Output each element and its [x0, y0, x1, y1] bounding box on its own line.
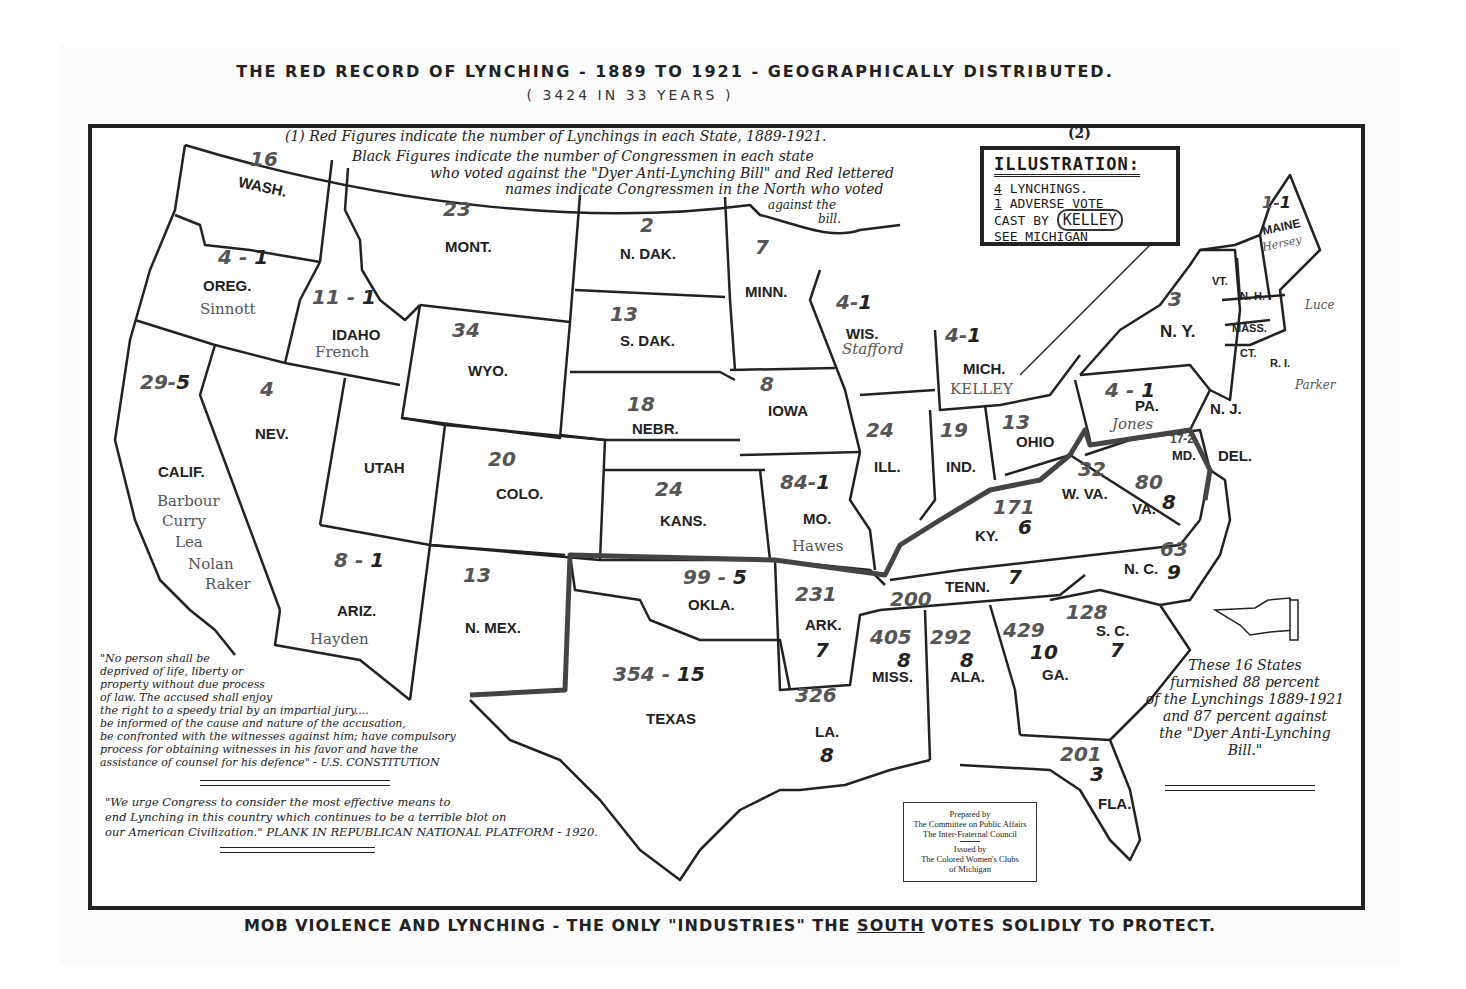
- state-wash-lynchings: 16: [250, 147, 278, 171]
- state-nh-label: N. H.: [1240, 290, 1265, 302]
- credits-box: Prepared by The Committee on Public Affa…: [903, 802, 1037, 882]
- state-colo-lynchings: 20: [488, 447, 516, 471]
- state-nc-lynchings: 63: [1160, 537, 1188, 561]
- state-iowa-label: IOWA: [768, 402, 808, 419]
- state-nc-label: N. C.: [1124, 560, 1158, 577]
- state-la-label: LA.: [815, 723, 839, 740]
- state-maine-lynchings: 1-1: [1262, 193, 1291, 212]
- state-utah-label: UTAH: [364, 459, 405, 476]
- state-texas-label: TEXAS: [646, 710, 696, 727]
- state-vt-label: VT.: [1212, 275, 1228, 287]
- state-kans-label: KANS.: [660, 512, 707, 529]
- state-wis-congressman: Stafford: [842, 340, 904, 358]
- stats-note: These 16 States furnished 88 percent of …: [1135, 657, 1355, 759]
- state-ark-votes: 7: [815, 638, 829, 662]
- state-pa-label: PA.: [1135, 397, 1159, 414]
- state-ga-votes: 10: [1030, 640, 1058, 664]
- state-iowa-lynchings: 8: [760, 372, 774, 396]
- state-wyo-label: WYO.: [468, 362, 508, 379]
- state-ill-label: ILL.: [874, 458, 901, 475]
- illustration-marker: (2): [1068, 125, 1091, 142]
- state-calif-congressman-1: Barbour: [157, 492, 220, 510]
- state-va-label: VA.: [1132, 500, 1156, 517]
- state-mich-lynchings: 4-1: [945, 323, 981, 347]
- state-nj-congressman: Parker: [1295, 378, 1336, 392]
- state-mich-congressman: KELLEY: [950, 380, 1013, 398]
- state-oreg-label: OREG.: [203, 277, 251, 294]
- state-nc-votes: 9: [1167, 560, 1181, 584]
- state-ny-label: N. Y.: [1160, 322, 1196, 342]
- state-ga-lynchings: 429: [1003, 618, 1045, 642]
- state-minn-lynchings: 7: [755, 235, 769, 259]
- state-ind-label: IND.: [946, 458, 976, 475]
- footer-caption: MOB VIOLENCE AND LYNCHING - THE ONLY "IN…: [150, 916, 1310, 935]
- state-del-label: DEL.: [1218, 447, 1252, 464]
- state-texas-lynchings: 354 - 15: [613, 662, 705, 686]
- stats-line-3: of the Lynchings 1889-1921: [1135, 691, 1355, 708]
- state-ga-label: GA.: [1042, 666, 1069, 683]
- stats-line-2: furnished 88 percent: [1135, 674, 1355, 691]
- stats-line-6: Bill.": [1135, 742, 1355, 759]
- state-colo-label: COLO.: [496, 485, 544, 502]
- state-wis-lynchings: 4-1: [836, 290, 872, 314]
- state-calif-congressman-4: Nolan: [188, 555, 234, 573]
- state-tenn-votes: 7: [1008, 565, 1022, 589]
- state-ohio-lynchings: 13: [1002, 410, 1030, 434]
- state-calif-congressman-3: Lea: [175, 533, 203, 551]
- legend-line-4: names indicate Congressmen in the North …: [505, 181, 883, 198]
- state-ri-label: R. I.: [1270, 357, 1290, 369]
- stats-line-4: and 87 percent against: [1135, 708, 1355, 725]
- stats-line-1: These 16 States: [1135, 657, 1355, 674]
- state-wyo-lynchings: 34: [452, 318, 480, 342]
- state-ny-lynchings: 3: [1168, 287, 1182, 311]
- state-nmex-lynchings: 13: [463, 563, 491, 587]
- state-mo-congressman: Hawes: [792, 537, 843, 555]
- state-sdak-lynchings: 13: [610, 302, 638, 326]
- platform-quote: "We urge Congress to consider the most e…: [105, 795, 625, 840]
- state-oreg-congressman: Sinnott: [200, 300, 255, 318]
- state-va-lynchings: 80: [1135, 470, 1163, 494]
- illustration-heading: ILLUSTRATION:: [994, 154, 1140, 177]
- state-ndak-lynchings: 2: [640, 213, 654, 237]
- state-okla-lynchings: 99 - 5: [683, 565, 747, 589]
- state-ct-label: CT.: [1240, 347, 1257, 359]
- legend-line-2: Black Figures indicate the number of Con…: [352, 148, 814, 165]
- illustration-box: ILLUSTRATION: 4 LYNCHINGS. 1 ADVERSE VOT…: [980, 146, 1180, 246]
- state-ky-label: KY.: [975, 527, 998, 544]
- state-fla-label: FLA.: [1098, 795, 1131, 812]
- state-miss-label: MISS.: [872, 668, 913, 685]
- illustration-row-castby: CAST BY KELLEY: [994, 211, 1166, 229]
- state-md-label: MD.: [1172, 448, 1196, 463]
- state-mo-lynchings: 84-1: [780, 470, 830, 494]
- state-md-figures: 17-2: [1170, 432, 1194, 446]
- state-nmex-label: N. MEX.: [465, 619, 521, 636]
- state-idaho-label: IDAHO: [332, 326, 380, 343]
- state-kans-lynchings: 24: [655, 477, 683, 501]
- state-sc-lynchings: 128: [1066, 600, 1108, 624]
- state-ill-lynchings: 24: [866, 418, 894, 442]
- state-mont-lynchings: 23: [443, 197, 471, 221]
- state-calif-lynchings: 29-5: [140, 370, 190, 394]
- state-ala-lynchings: 292: [930, 625, 972, 649]
- state-mass-congressman: Luce: [1305, 298, 1335, 312]
- state-va-votes: 8: [1162, 490, 1176, 514]
- state-idaho-lynchings: 11 - 1: [312, 285, 376, 309]
- state-nev-label: NEV.: [255, 425, 289, 442]
- state-sc-votes: 7: [1110, 638, 1124, 662]
- state-fla-votes: 3: [1090, 762, 1104, 786]
- state-wva-lynchings: 32: [1078, 457, 1106, 481]
- state-miss-lynchings: 405: [870, 625, 912, 649]
- state-ndak-label: N. DAK.: [620, 245, 676, 262]
- state-nebr-lynchings: 18: [627, 392, 655, 416]
- state-ohio-label: OHIO: [1016, 433, 1054, 450]
- state-ala-label: ALA.: [950, 668, 985, 685]
- state-ind-lynchings: 19: [940, 418, 968, 442]
- state-la-votes: 8: [820, 743, 834, 767]
- state-mich-label: MICH.: [963, 360, 1006, 377]
- state-oreg-lynchings: 4 - 1: [218, 245, 268, 269]
- state-ky-votes: 6: [1018, 515, 1032, 539]
- constitution-quote: "No person shall be deprived of life, li…: [100, 652, 500, 769]
- stats-divider: [1165, 785, 1315, 791]
- state-pa-congressman: Jones: [1112, 415, 1153, 433]
- stats-line-5: the "Dyer Anti-Lynching: [1135, 725, 1355, 742]
